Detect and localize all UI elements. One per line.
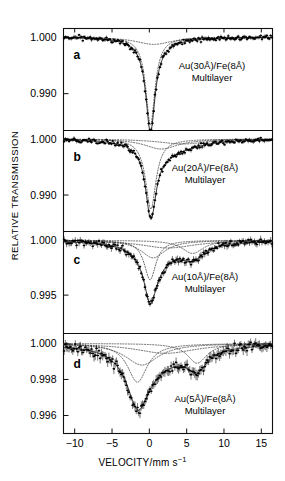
error-bars <box>64 136 272 219</box>
y-tick-label: 0.996 <box>30 409 56 421</box>
error-bars <box>64 34 272 130</box>
component-curve-low-velocity-line <box>64 344 273 382</box>
sample-label-line1: Au(10Å)/Fe(8Å) <box>172 271 239 282</box>
x-axis-ticks: −10−5051015 <box>66 29 268 449</box>
panel-letter-a: a <box>74 48 81 62</box>
fit-envelope <box>64 242 273 304</box>
panel-letter-c: c <box>74 253 81 267</box>
x-tick-label: 0 <box>146 437 152 449</box>
component-curve-narrow-doublet <box>64 240 273 279</box>
data-points <box>64 338 273 418</box>
data-markers <box>64 35 273 130</box>
sample-label-line2: Multilayer <box>185 174 226 185</box>
data-points <box>64 236 273 307</box>
error-bars <box>64 236 272 307</box>
sample-label-line2: Multilayer <box>185 283 226 294</box>
x-tick-label: −5 <box>106 437 118 449</box>
sample-label-line2: Multilayer <box>185 405 226 416</box>
error-bars <box>64 338 272 418</box>
sample-label-line1: Au(30Å)/Fe(8Å) <box>179 60 246 71</box>
panel-letter-b: b <box>74 150 81 164</box>
x-tick-label: 15 <box>255 437 267 449</box>
y-tick-label: 0.990 <box>30 87 56 99</box>
plot-canvas: −10−50510151.0000.990aAu(30Å)/Fe(8Å)Mult… <box>0 0 285 481</box>
x-tick-label: 5 <box>184 437 190 449</box>
panel-d: 1.0000.9980.996dAu(5Å)/Fe(8Å)Multilayer <box>30 337 272 421</box>
y-tick-label: 0.990 <box>30 189 56 201</box>
x-axis-title: VELOCITY/mm s−1 <box>0 455 285 468</box>
y-tick-label: 1.000 <box>30 133 56 145</box>
panel-c: 1.0000.995cAu(10Å)/Fe(8Å)Multilayer <box>30 234 272 307</box>
sample-label-line1: Au(5Å)/Fe(8Å) <box>174 393 235 404</box>
y-tick-label: 0.998 <box>30 373 56 385</box>
x-axis-title-exponent: −1 <box>178 455 187 464</box>
mossbauer-spectra-figure: −10−50510151.0000.990aAu(30Å)/Fe(8Å)Mult… <box>0 0 285 481</box>
data-points <box>64 136 273 219</box>
fit-envelope <box>64 140 273 220</box>
sample-label-line2: Multilayer <box>192 72 233 83</box>
x-tick-label: −10 <box>66 437 84 449</box>
y-axis-title: RELATIVE TRANSMISSION <box>9 96 20 296</box>
data-points <box>64 34 273 130</box>
y-tick-label: 1.000 <box>30 234 56 246</box>
sample-label-line1: Au(20Å)/Fe(8Å) <box>172 162 239 173</box>
data-markers <box>64 138 273 218</box>
component-curve-narrow-doublet <box>64 139 273 209</box>
panel-b: 1.0000.990bAu(20Å)/Fe(8Å)Multilayer <box>30 133 272 220</box>
y-tick-label: 0.995 <box>30 289 56 301</box>
panel-a: 1.0000.990aAu(30Å)/Fe(8Å)Multilayer <box>30 31 272 131</box>
panel-letter-d: d <box>74 357 81 371</box>
x-axis-title-main: VELOCITY/mm s <box>98 457 177 468</box>
y-tick-label: 1.000 <box>30 337 56 349</box>
data-markers <box>64 342 273 413</box>
x-tick-label: 10 <box>218 437 230 449</box>
y-tick-label: 1.000 <box>30 31 56 43</box>
